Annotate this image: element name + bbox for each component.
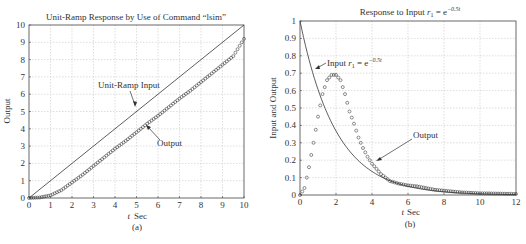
series-marker	[182, 94, 185, 97]
x-tick-label: 4	[113, 200, 118, 210]
chart-a: 012345678910012345678910 Unit-Ramp Respo…	[2, 12, 249, 232]
series-marker	[353, 122, 356, 125]
series-marker	[148, 121, 151, 124]
series-marker	[232, 55, 235, 58]
series-marker	[373, 165, 376, 168]
series-marker	[150, 119, 153, 122]
series-marker	[323, 86, 326, 89]
chart-a-annotation-input: Unit-Ramp Input	[98, 80, 160, 90]
series-marker	[146, 122, 149, 125]
series-marker	[366, 155, 369, 158]
chart-a-panel-label: (a)	[132, 222, 142, 232]
chart-b-arrow-output	[378, 139, 412, 160]
chart-a-xlabel-sec: Sec	[134, 211, 147, 221]
y-tick-label: 2	[21, 158, 26, 168]
y-tick-label: 0	[292, 190, 297, 200]
y-tick-label: 5	[21, 107, 26, 117]
series-marker	[357, 136, 360, 139]
y-tick-label: 10	[16, 20, 26, 30]
x-tick-label: 7	[177, 200, 182, 210]
x-tick-label: 5	[134, 200, 139, 210]
series-marker	[377, 170, 380, 173]
y-tick-label: 8	[21, 55, 26, 65]
series-marker	[364, 151, 367, 154]
x-tick-label: 10	[476, 197, 486, 207]
series-marker	[238, 44, 241, 47]
series-marker	[375, 167, 378, 170]
x-tick-label: 12	[512, 197, 521, 207]
series-marker	[319, 104, 322, 107]
series-marker	[187, 91, 190, 94]
series-marker	[152, 117, 155, 120]
series-marker	[348, 110, 351, 113]
y-tick-label: 0.8	[285, 51, 297, 61]
series-marker	[328, 76, 331, 79]
x-tick-label: 8	[442, 197, 447, 207]
series-marker	[303, 187, 306, 190]
x-tick-label: 3	[91, 200, 96, 210]
series-marker	[346, 101, 349, 104]
y-tick-label: 0.5	[285, 103, 297, 113]
x-tick-label: 2	[334, 197, 339, 207]
x-tick-label: 10	[240, 200, 250, 210]
series-marker	[66, 184, 69, 187]
chart-b-annotation-output: Output	[413, 130, 439, 140]
series-marker	[308, 166, 311, 169]
series-marker	[68, 182, 71, 185]
chart-a-title: Unit-Ramp Response by Use of Command “ls…	[46, 12, 226, 22]
series-marker	[234, 51, 237, 54]
series-marker	[301, 190, 304, 193]
series-marker	[79, 175, 82, 178]
y-tick-label: 0.7	[285, 68, 297, 78]
x-tick-label: 9	[220, 200, 225, 210]
series-marker	[118, 144, 121, 147]
series-marker	[77, 176, 80, 179]
y-tick-label: 9	[21, 37, 26, 47]
y-tick-label: 0.2	[285, 155, 296, 165]
y-tick-label: 7	[21, 72, 26, 82]
x-tick-label: 6	[156, 200, 161, 210]
y-tick-label: 0.3	[285, 138, 297, 148]
y-tick-label: 0.6	[285, 86, 297, 96]
series-marker	[180, 95, 183, 98]
series-marker	[310, 153, 313, 156]
y-tick-label: 6	[21, 89, 26, 99]
chart-b-panel-label: (b)	[405, 219, 416, 229]
series-marker	[321, 93, 324, 96]
series-marker	[122, 141, 125, 144]
chart-b-ylabel: Input and Output	[268, 77, 278, 139]
series-marker	[339, 79, 342, 82]
chart-b-annotation-input: Input r1 = e−0.5t	[327, 57, 382, 69]
series-marker	[337, 76, 340, 79]
chart-a-annotation-output: Output	[157, 138, 183, 148]
series-marker	[120, 143, 123, 146]
y-tick-label: 4	[21, 124, 26, 134]
chart-b-xlabel-sec: Sec	[407, 207, 420, 217]
series-marker	[314, 128, 317, 131]
series-marker	[154, 116, 157, 119]
x-tick-label: 2	[70, 200, 75, 210]
series-marker	[362, 147, 365, 150]
series-marker	[326, 79, 329, 82]
chart-b: 02468101200.10.20.30.40.50.60.70.80.91 R…	[268, 6, 521, 229]
x-tick-label: 6	[406, 197, 411, 207]
series-marker	[75, 178, 78, 181]
series-marker	[62, 187, 65, 190]
chart-b-grid	[300, 21, 516, 195]
x-tick-label: 1	[48, 200, 53, 210]
chart-b-ticks: 02468101200.10.20.30.40.50.60.70.80.91	[285, 16, 521, 207]
arrow-head-icon	[315, 65, 320, 69]
y-tick-label: 0.9	[285, 33, 297, 43]
y-tick-label: 3	[21, 141, 26, 151]
series-marker	[355, 129, 358, 132]
x-tick-label: 0	[298, 197, 303, 207]
y-tick-label: 0.4	[285, 120, 297, 130]
x-tick-label: 4	[370, 197, 375, 207]
y-tick-label: 1	[21, 176, 26, 186]
chart-a-ylabel: Output	[2, 98, 12, 124]
series-marker	[350, 116, 353, 119]
series-marker	[344, 93, 347, 96]
y-tick-label: 1	[292, 16, 297, 26]
series-marker	[317, 115, 320, 118]
x-tick-label: 8	[199, 200, 204, 210]
